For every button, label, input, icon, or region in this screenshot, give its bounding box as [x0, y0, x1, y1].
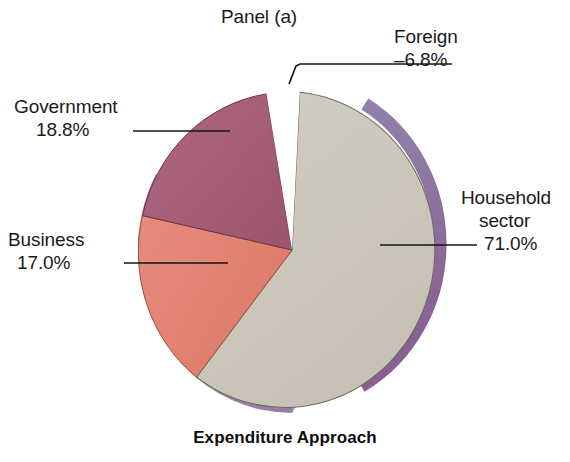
household-sector-label: sector — [479, 209, 530, 232]
household-value: 71.0% — [484, 232, 537, 255]
panel-title: Panel (a) — [0, 5, 570, 28]
foreign-value: –6.8% — [394, 48, 447, 71]
business-label: Business — [8, 228, 84, 251]
business-value: 17.0% — [17, 251, 70, 274]
pie-chart-figure: Panel (a) Foreign –6.8% Government 18.8%… — [0, 0, 570, 462]
foreign-label: Foreign — [394, 25, 458, 48]
chart-caption: Expenditure Approach — [0, 428, 570, 448]
government-label: Government — [14, 95, 118, 118]
household-label: Household — [461, 186, 551, 209]
pie-slices — [138, 92, 434, 408]
government-value: 18.8% — [36, 118, 89, 141]
